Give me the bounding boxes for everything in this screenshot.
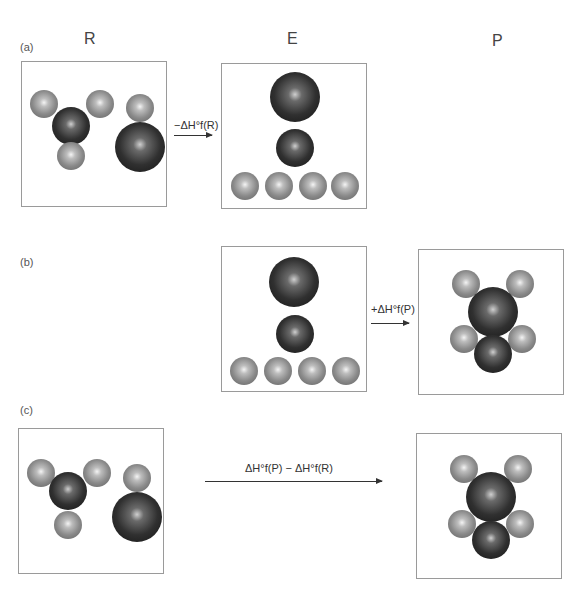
- large-atom: [115, 122, 165, 172]
- arrow-c: [205, 481, 382, 482]
- large-atom: [276, 315, 314, 353]
- part-label-b: (b): [20, 256, 33, 268]
- small-atom: [30, 90, 58, 118]
- part-label-c: (c): [20, 404, 33, 416]
- large-atom: [472, 521, 510, 559]
- small-atom: [126, 94, 154, 122]
- small-atom: [123, 464, 151, 492]
- arrow-b: [371, 323, 409, 324]
- column-header-reactants: R: [84, 30, 96, 48]
- column-header-products: P: [492, 32, 503, 50]
- arrow-label-c: ΔH°f(P) − ΔH°f(R): [245, 462, 333, 474]
- large-atom: [112, 492, 162, 542]
- small-atom: [54, 511, 82, 539]
- small-atom: [331, 172, 359, 200]
- small-atom: [231, 172, 259, 200]
- large-atom: [52, 107, 90, 145]
- reactants-box-a: [21, 61, 167, 207]
- arrow-label-a: −ΔH°f(R): [174, 119, 218, 131]
- small-atom: [86, 90, 114, 118]
- part-label-a: (a): [20, 41, 33, 53]
- small-atom: [265, 172, 293, 200]
- elements-box-a: [221, 63, 367, 209]
- products-box-b: [418, 249, 564, 395]
- small-atom: [57, 142, 85, 170]
- large-atom: [276, 129, 314, 167]
- products-box-c: [416, 433, 562, 579]
- large-atom: [270, 72, 320, 122]
- arrow-a: [174, 135, 212, 136]
- column-header-elements: E: [287, 30, 298, 48]
- small-atom: [298, 357, 326, 385]
- elements-box-b: [221, 246, 367, 392]
- small-atom: [264, 357, 292, 385]
- reactants-box-c: [18, 428, 164, 574]
- small-atom: [83, 459, 111, 487]
- small-atom: [508, 325, 536, 353]
- small-atom: [506, 510, 534, 538]
- small-atom: [332, 357, 360, 385]
- small-atom: [299, 172, 327, 200]
- small-atom: [230, 357, 258, 385]
- arrow-label-b: +ΔH°f(P): [371, 303, 415, 315]
- large-atom: [269, 257, 319, 307]
- large-atom: [474, 335, 512, 373]
- large-atom: [49, 472, 87, 510]
